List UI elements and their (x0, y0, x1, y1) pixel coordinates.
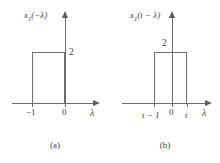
figure-container: x1(−λ) 2 −1 0 λ (a) x1(t − λ) (0, 0, 220, 163)
panel-b-fn-argument: (t − λ) (137, 10, 160, 20)
panel-b-horizontal-axis-arrow-icon (205, 100, 212, 106)
panel-a-function-label: x1(−λ) (24, 11, 47, 22)
panel-a-fn-argument: (−λ) (31, 10, 47, 20)
panel-b-caption: (b) (110, 140, 220, 150)
panel-a-vertical-axis-arrow-icon (62, 11, 68, 18)
panel-a-pulse-rect (32, 52, 65, 103)
panel-a-caption: (a) (0, 140, 110, 150)
panel-b-tick-label-t-minus-1: t − 1 (142, 111, 160, 120)
panel-b-tick-t-minus-1 (154, 103, 155, 107)
panel-b-tick-t (187, 103, 188, 107)
panel-b-amplitude-label: 2 (162, 39, 167, 49)
panel-a-amplitude-label: 2 (69, 48, 74, 58)
panel-a-tick-label-0: 0 (62, 108, 67, 117)
panel-b: x1(t − λ) 2 t − 1 0 t λ (b) (110, 0, 220, 163)
panel-a-vertical-axis (65, 18, 66, 103)
panel-b-horizontal-axis (122, 103, 207, 104)
panel-b-vertical-axis-arrow-icon (169, 11, 175, 18)
panel-a: x1(−λ) 2 −1 0 λ (a) (0, 0, 110, 163)
panel-b-tick-label-0: 0 (169, 108, 174, 117)
panel-a-horizontal-axis-arrow-icon (93, 100, 100, 106)
panel-b-axis-label: λ (202, 108, 206, 118)
panel-a-horizontal-axis (12, 103, 95, 104)
panel-b-function-label: x1(t − λ) (130, 11, 160, 22)
panel-a-axis-label: λ (90, 108, 94, 118)
panel-b-pulse-rect (154, 52, 187, 103)
panel-b-tick-label-t: t (185, 111, 188, 120)
panel-a-tick-label-neg1: −1 (26, 108, 36, 117)
